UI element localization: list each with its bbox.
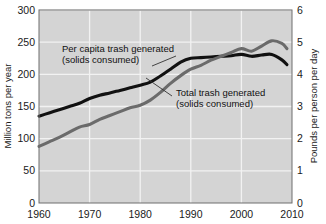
y2-axis-tick-label: 3 xyxy=(297,100,303,112)
chart-svg: 050100150200250300 0123456 1960197019801… xyxy=(0,0,326,224)
y2-axis-tick-label: 6 xyxy=(297,4,303,16)
y-axis-tick-label: 250 xyxy=(17,36,35,48)
y-axis-tick-label: 150 xyxy=(17,100,35,112)
y2-axis-tick-label: 4 xyxy=(297,68,303,80)
x-axis-tick-label: 1960 xyxy=(27,208,51,220)
y2-axis-title: Pounds per person per day xyxy=(308,48,319,163)
y2-axis-tick-label: 2 xyxy=(297,132,303,144)
y-axis-tick-label: 0 xyxy=(29,197,35,209)
total-trash-annotation-line2: (solids consumed) xyxy=(176,98,253,109)
total-trash-annotation-line1: Total trash generated xyxy=(176,87,265,98)
y-axis-tick-label: 50 xyxy=(23,164,35,176)
per-capita-annotation-line2: (solids consumed) xyxy=(62,54,139,65)
y2-axis-tick-label: 5 xyxy=(297,36,303,48)
y-axis-tick-label: 200 xyxy=(17,68,35,80)
x-axis-tick-label: 2000 xyxy=(230,208,254,220)
x-axis-tick-label: 1980 xyxy=(129,208,153,220)
per-capita-annotation-line1: Per capita trash generated xyxy=(62,43,174,54)
x-axis-tick-label: 1970 xyxy=(78,208,102,220)
y-axis-tick-label: 100 xyxy=(17,132,35,144)
y-axis-title: Million tons per year xyxy=(2,63,13,148)
x-axis-tick-label: 1990 xyxy=(179,208,203,220)
y-axis-tick-label: 300 xyxy=(17,4,35,16)
x-axis-tick-label: 2010 xyxy=(280,208,304,220)
y2-axis-tick-label: 1 xyxy=(297,164,303,176)
trash-generation-chart: 050100150200250300 0123456 1960197019801… xyxy=(0,0,326,224)
y2-axis-tick-label: 0 xyxy=(297,197,303,209)
